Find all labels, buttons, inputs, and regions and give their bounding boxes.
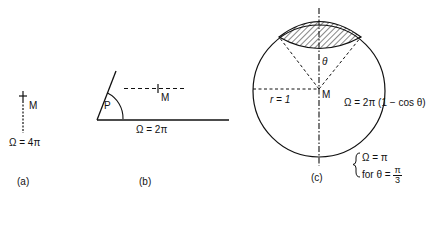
panel-b-formula: Ω = 2π <box>136 124 167 136</box>
panel-b-point-label: M <box>161 92 169 104</box>
panel-c-caption: (c) <box>311 172 323 184</box>
fraction-denominator: 3 <box>393 176 401 185</box>
panel-c-example-fraction: π 3 <box>393 166 401 185</box>
panel-b-caption: (b) <box>139 176 151 188</box>
panel-c-radius-label: r = 1 <box>270 94 290 106</box>
panel-a-point-label: M <box>29 100 37 112</box>
panel-a-formula: Ω = 4π <box>9 137 40 149</box>
panel-a-figure <box>19 91 27 133</box>
panel-c-example-line1: Ω = π <box>362 152 388 164</box>
panel-b-vertex-label: P <box>104 100 111 112</box>
panel-a-caption: (a) <box>17 176 29 188</box>
panel-c-angle-label: θ <box>322 56 327 68</box>
panel-c-point-label: M <box>322 89 330 101</box>
panel-c-example-prefix: for θ = <box>362 169 391 180</box>
panel-c-example-line2: for θ = π 3 <box>362 166 402 185</box>
panel-c-formula: Ω = 2π (1 − cos θ) <box>344 97 426 109</box>
